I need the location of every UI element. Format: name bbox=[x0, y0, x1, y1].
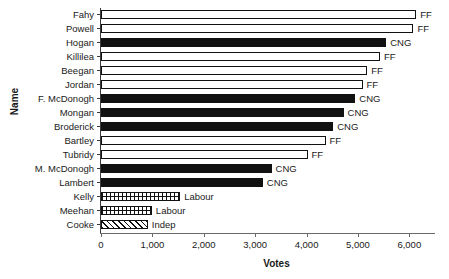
bar-party-label: FF bbox=[416, 8, 432, 21]
category-label: Jordan bbox=[65, 78, 94, 91]
bar bbox=[101, 10, 416, 19]
category-label: Powell bbox=[66, 22, 94, 35]
bar-party-label: FF bbox=[326, 134, 342, 147]
bar-party-label: FF bbox=[380, 50, 396, 63]
category-label: Killilea bbox=[67, 50, 94, 63]
bar-party-label: Indep bbox=[148, 218, 176, 231]
bar bbox=[101, 66, 367, 75]
category-label: Meehan bbox=[60, 204, 94, 217]
bar-row: KillileaFF bbox=[101, 50, 435, 63]
bar-party-label: FF bbox=[367, 64, 383, 77]
plot-area: FahyFFPowellFFHoganCNGKillileaFFBeeganFF… bbox=[101, 8, 435, 232]
bar-row: BeeganFF bbox=[101, 64, 435, 77]
bar bbox=[101, 220, 148, 229]
x-axis-tick bbox=[409, 233, 410, 237]
bar bbox=[101, 164, 272, 173]
x-axis-tick-label: 6,000 bbox=[397, 239, 421, 250]
bar bbox=[101, 38, 386, 47]
bar-party-label: CNG bbox=[355, 92, 380, 105]
category-label: Cooke bbox=[67, 218, 94, 231]
bar-party-label: Labour bbox=[152, 204, 186, 217]
bar-row: TubridyFF bbox=[101, 148, 435, 161]
x-axis-tick-label: 1,000 bbox=[140, 239, 164, 250]
bar bbox=[101, 80, 363, 89]
bar-row: BartleyFF bbox=[101, 134, 435, 147]
bar-row: HoganCNG bbox=[101, 36, 435, 49]
horizontal-bar-chart: Name FahyFFPowellFFHoganCNGKillileaFFBee… bbox=[0, 0, 449, 279]
category-label: Tubridy bbox=[63, 148, 94, 161]
x-axis-tick-label: 2,000 bbox=[192, 239, 216, 250]
bar bbox=[101, 150, 308, 159]
x-axis-tick-label: 4,000 bbox=[295, 239, 319, 250]
category-label: F. McDonogh bbox=[38, 92, 94, 105]
bar bbox=[101, 24, 413, 33]
bar bbox=[101, 94, 355, 103]
x-axis-title-text: Votes bbox=[263, 258, 290, 269]
bar-row: PowellFF bbox=[101, 22, 435, 35]
bar-party-label: FF bbox=[308, 148, 324, 161]
bar-row: F. McDonoghCNG bbox=[101, 92, 435, 105]
bar-row: M. McDonoghCNG bbox=[101, 162, 435, 175]
category-label: Mongan bbox=[60, 106, 94, 119]
bar bbox=[101, 192, 180, 201]
category-label: Kelly bbox=[73, 190, 94, 203]
bar-party-label: CNG bbox=[333, 120, 358, 133]
category-label: Broderick bbox=[54, 120, 94, 133]
x-axis-line bbox=[100, 233, 435, 234]
x-axis-title: Votes bbox=[0, 258, 449, 269]
bar bbox=[101, 206, 152, 215]
bar bbox=[101, 108, 344, 117]
bar-party-label: Labour bbox=[180, 190, 214, 203]
bar-row: CookeIndep bbox=[101, 218, 435, 231]
bar-party-label: FF bbox=[413, 22, 429, 35]
bar bbox=[101, 52, 380, 61]
bar-party-label: CNG bbox=[386, 36, 411, 49]
category-label: Beegan bbox=[61, 64, 94, 77]
category-label: Fahy bbox=[73, 8, 94, 21]
bar-row: LambertCNG bbox=[101, 176, 435, 189]
x-axis-tick bbox=[101, 233, 102, 237]
bar-party-label: CNG bbox=[272, 162, 297, 175]
bar-party-label: CNG bbox=[263, 176, 288, 189]
bar bbox=[101, 122, 333, 131]
bar-row: BroderickCNG bbox=[101, 120, 435, 133]
category-label: Lambert bbox=[59, 176, 94, 189]
bar-row: MeehanLabour bbox=[101, 204, 435, 217]
x-axis-tick-label: 0 bbox=[98, 239, 103, 250]
bar-row: JordanFF bbox=[101, 78, 435, 91]
x-axis-tick-label: 3,000 bbox=[243, 239, 267, 250]
bar bbox=[101, 178, 263, 187]
category-label: Hogan bbox=[66, 36, 94, 49]
x-axis-tick bbox=[152, 233, 153, 237]
bar-row: MonganCNG bbox=[101, 106, 435, 119]
bar-row: FahyFF bbox=[101, 8, 435, 21]
x-axis-tick bbox=[358, 233, 359, 237]
x-axis-tick bbox=[307, 233, 308, 237]
x-axis-tick-label: 5,000 bbox=[346, 239, 370, 250]
category-label: Bartley bbox=[64, 134, 94, 147]
bar-party-label: CNG bbox=[344, 106, 369, 119]
category-label: M. McDonogh bbox=[35, 162, 94, 175]
y-axis-title: Name bbox=[9, 72, 20, 132]
bar-party-label: FF bbox=[363, 78, 379, 91]
x-axis-tick bbox=[204, 233, 205, 237]
bar-row: KellyLabour bbox=[101, 190, 435, 203]
bar bbox=[101, 136, 326, 145]
x-axis-tick bbox=[255, 233, 256, 237]
